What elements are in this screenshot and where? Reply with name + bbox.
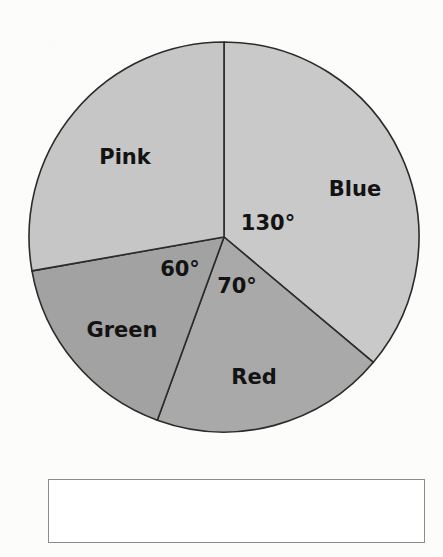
pie-angle-label-red: 70°	[217, 274, 257, 298]
pie-chart-figure: BlueRedGreenPink 130°70°60°	[0, 0, 443, 460]
pie-slice-label-red: Red	[231, 365, 276, 389]
pie-slice-label-pink: Pink	[99, 145, 152, 169]
pie-angle-label-blue: 130°	[241, 211, 295, 235]
answer-box[interactable]	[48, 479, 425, 543]
pie-slices-group	[29, 42, 419, 432]
pie-slice-label-green: Green	[86, 318, 157, 342]
pie-slice-label-blue: Blue	[329, 177, 381, 201]
pie-angle-label-green: 60°	[160, 257, 200, 281]
pie-chart-svg: BlueRedGreenPink 130°70°60°	[0, 0, 443, 460]
worksheet-page: BlueRedGreenPink 130°70°60°	[0, 0, 443, 557]
